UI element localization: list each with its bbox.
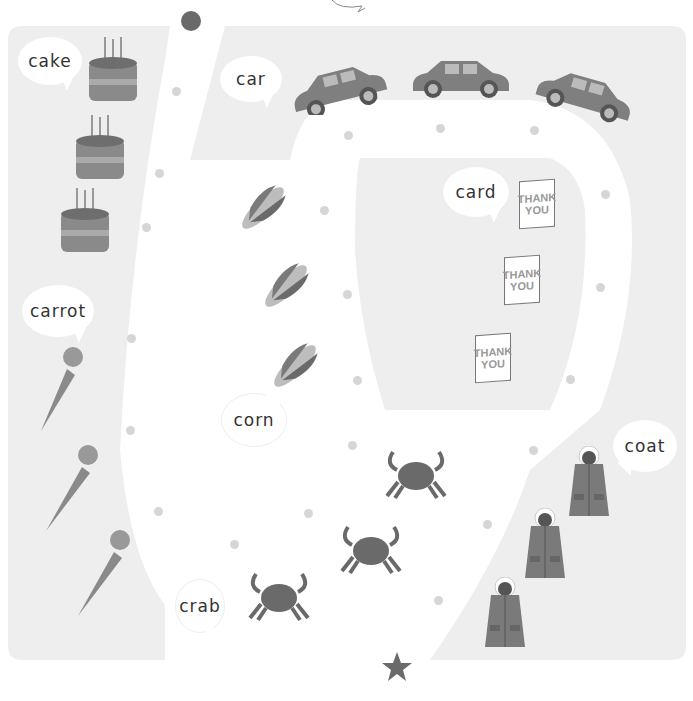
cake-icon bbox=[74, 113, 126, 183]
card-text: YOU bbox=[481, 357, 505, 371]
label-card: card bbox=[443, 167, 509, 217]
label-carrot: carrot bbox=[22, 285, 94, 337]
thank-you-card-icon: THANKYOU bbox=[475, 333, 511, 384]
path-dot bbox=[172, 87, 181, 96]
path-dot bbox=[566, 375, 575, 384]
maze-board: cake car card carrot corn coat crab THAN… bbox=[0, 0, 693, 701]
label-car: car bbox=[220, 56, 282, 102]
path-dot bbox=[155, 169, 164, 178]
crab-icon bbox=[383, 448, 449, 500]
start-circle-icon bbox=[181, 11, 201, 31]
carrot-icon bbox=[35, 345, 85, 433]
path-dot bbox=[126, 426, 135, 435]
car-icon bbox=[411, 57, 511, 99]
label-cake: cake bbox=[18, 37, 82, 85]
corn-icon bbox=[232, 177, 294, 239]
coat-icon bbox=[481, 577, 529, 651]
label-corn: corn bbox=[222, 394, 286, 446]
card-text: YOU bbox=[525, 203, 549, 217]
carrot-icon bbox=[72, 528, 134, 618]
path-dot bbox=[320, 206, 329, 215]
label-crab: crab bbox=[176, 580, 224, 632]
path-dot bbox=[344, 131, 353, 140]
label-coat: coat bbox=[613, 420, 677, 472]
path-dot bbox=[142, 223, 151, 232]
cake-icon bbox=[87, 35, 139, 105]
crab-icon bbox=[246, 570, 312, 626]
coat-icon bbox=[521, 508, 569, 582]
path-dot bbox=[304, 509, 313, 518]
thank-you-card-icon: THANKYOU bbox=[504, 255, 540, 306]
path-dot bbox=[154, 507, 163, 516]
card-text: YOU bbox=[510, 279, 534, 293]
path-dot bbox=[230, 540, 239, 549]
corn-icon bbox=[264, 335, 326, 397]
path-dot bbox=[343, 290, 352, 299]
car-icon bbox=[288, 65, 390, 115]
thank-you-card-icon: THANKYOU bbox=[519, 179, 555, 230]
path-dot bbox=[436, 124, 445, 133]
car-icon bbox=[535, 68, 635, 124]
path-dot bbox=[483, 520, 492, 529]
path-dot bbox=[596, 283, 605, 292]
cake-icon bbox=[59, 186, 111, 256]
corn-icon bbox=[255, 255, 317, 317]
path-dot bbox=[529, 446, 538, 455]
path-dot bbox=[127, 334, 136, 343]
carrot-icon bbox=[40, 443, 102, 533]
finish-star-icon bbox=[382, 652, 412, 681]
path-dot bbox=[353, 376, 362, 385]
crab-icon bbox=[338, 523, 404, 579]
path-dot bbox=[530, 126, 539, 135]
path-dot bbox=[434, 596, 443, 605]
coat-icon bbox=[565, 446, 613, 520]
path-dot bbox=[601, 190, 610, 199]
path-dot bbox=[348, 441, 357, 450]
